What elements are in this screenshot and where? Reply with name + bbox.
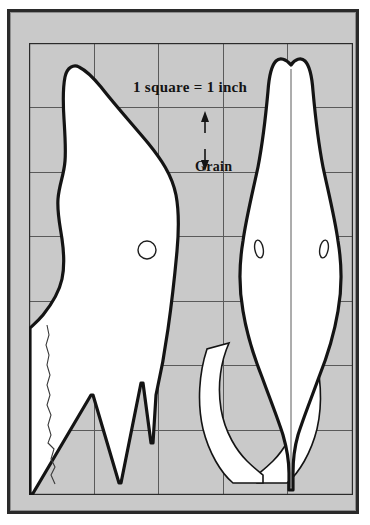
pattern-figure: 1 square = 1 inch Grain xyxy=(0,0,370,525)
pattern-artwork xyxy=(29,43,353,495)
grid-plate: 1 square = 1 inch Grain xyxy=(29,43,353,495)
top-plan-view xyxy=(200,59,341,490)
figure-frame: 1 square = 1 inch Grain xyxy=(7,9,359,514)
grain-label: Grain xyxy=(195,159,232,175)
tail-underlay-left xyxy=(200,343,263,483)
side-profile-view xyxy=(30,66,178,495)
side-profile-outline xyxy=(30,66,178,495)
scale-caption: 1 square = 1 inch xyxy=(133,79,247,96)
